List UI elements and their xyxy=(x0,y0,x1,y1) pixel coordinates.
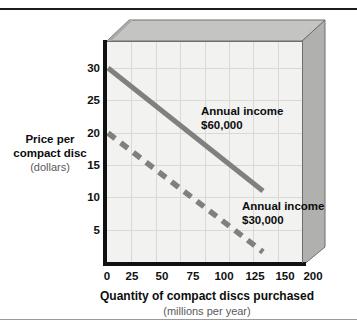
annotation-low-income-line1: Annual income xyxy=(242,200,324,212)
supply-demand-figure: 30 25 20 15 10 5 0 25 50 75 100 125 150 … xyxy=(0,0,357,329)
y-axis-title-units: (dollars) xyxy=(2,161,98,175)
x-axis-line xyxy=(103,262,306,266)
x-axis-ticks: 0 25 50 75 100 125 150 200 xyxy=(107,270,327,286)
y-tick-label: 25 xyxy=(60,94,100,106)
y-axis-line xyxy=(103,40,107,266)
demand-curve-low-income xyxy=(108,133,263,252)
plot-area xyxy=(107,42,302,262)
plot-right-border xyxy=(302,41,303,263)
x-axis-title: Quantity of compact discs purchased (mil… xyxy=(57,289,357,318)
x-axis-title-units: (millions per year) xyxy=(57,304,357,318)
x-axis-title-main: Quantity of compact discs purchased xyxy=(57,289,357,303)
y-tick-label: 5 xyxy=(60,224,100,236)
annotation-high-income: Annual income $60,000 xyxy=(201,105,283,132)
annotation-low-income-line2: $30,000 xyxy=(242,214,284,226)
demand-curves xyxy=(107,42,302,262)
y-axis-title: Price per compact disc (dollars) xyxy=(2,133,98,175)
x-tick-label: 200 xyxy=(293,270,333,283)
annotation-low-income: Annual income $30,000 xyxy=(242,200,324,227)
annotation-high-income-line2: $60,000 xyxy=(201,119,243,131)
y-tick-label: 30 xyxy=(60,62,100,74)
plot-top-border xyxy=(107,41,303,42)
y-axis-title-main: Price per compact disc xyxy=(2,133,98,160)
annotation-high-income-line1: Annual income xyxy=(201,105,283,117)
y-tick-label: 10 xyxy=(60,191,100,203)
